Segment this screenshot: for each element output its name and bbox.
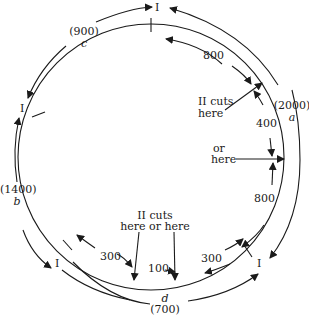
cut-I-top: I: [155, 2, 159, 14]
dna-circle: [18, 24, 284, 290]
fragment-c-letter: c: [64, 38, 104, 50]
annotation-or-here: here: [211, 154, 236, 166]
arc-a-up-arrow: [170, 8, 278, 85]
arc-b-down-arrow: [23, 230, 51, 268]
segment-800-right: 800: [254, 193, 275, 205]
segment-300-right: 300: [201, 253, 222, 265]
segment-100: 100: [148, 263, 169, 275]
arc-d-left: [73, 262, 150, 304]
segment-300-left: 300: [100, 251, 121, 263]
cut-tick-bottom-left: [63, 240, 72, 250]
annotation-here: here: [198, 108, 223, 120]
pointer-here-right: [174, 232, 175, 280]
cut-I-bottom-right: I: [257, 258, 261, 270]
restriction-map-diagram: (900) c (2000) a (1400) b d (700) I I I …: [0, 0, 309, 317]
cut-I-left: I: [20, 103, 24, 115]
arc-c-to-top-arrow: [96, 7, 152, 22]
fragment-d-value: (700): [145, 304, 185, 316]
annotation-here-or-here: here or here: [115, 221, 195, 233]
arc-c-to-left-arrow: [28, 46, 66, 98]
pointer-here-left: [134, 232, 139, 280]
cut-I-bottom-left: I: [55, 258, 59, 270]
fragment-b-letter: b: [0, 196, 34, 208]
segment-400: 400: [256, 118, 277, 130]
fragment-a-letter: a: [272, 112, 309, 124]
arc-d-right-arrow: [188, 274, 258, 301]
cut-tick-left: [32, 112, 45, 117]
segment-800-top: 800: [203, 50, 224, 62]
